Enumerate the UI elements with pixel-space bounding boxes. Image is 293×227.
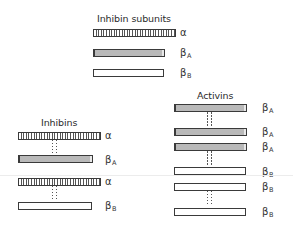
activin-ab-beta-b-label: βB — [262, 167, 273, 180]
inhibin-a-alpha-bar — [18, 132, 101, 140]
subunits-title: Inhibin subunits — [97, 14, 171, 24]
inhibin-b-beta-b-label: βB — [105, 201, 116, 214]
activin-a-beta-a-label-1: βA — [262, 103, 273, 116]
inhibins-title: Inhibins — [41, 118, 77, 128]
subunit-alpha-bar — [93, 29, 176, 37]
disulfide-bond-icon — [51, 140, 59, 154]
activin-ab-beta-b-bar — [174, 167, 246, 175]
subunit-beta-a-bar — [93, 49, 165, 57]
disulfide-bond-icon — [206, 112, 214, 126]
disulfide-bond-icon — [51, 186, 59, 200]
inhibin-a-beta-a-label: βA — [105, 155, 116, 168]
subunit-alpha-label: α — [180, 28, 187, 38]
activin-b-beta-b-bar-2 — [174, 208, 246, 216]
activin-a-beta-a-label-2: βA — [262, 127, 273, 140]
inhibin-a-alpha-label: α — [105, 131, 112, 141]
activin-b-beta-b-label-2: βB — [262, 207, 273, 220]
inhibin-b-beta-b-bar — [18, 202, 92, 210]
disulfide-bond-icon — [206, 191, 214, 205]
scan-artifact-line — [0, 175, 293, 176]
inhibin-b-alpha-bar — [18, 178, 101, 186]
activins-title: Activins — [197, 91, 233, 101]
activin-ab-beta-a-bar — [174, 143, 247, 151]
disulfide-bond-icon — [206, 151, 214, 165]
inhibin-a-beta-a-bar — [18, 155, 93, 163]
activin-a-beta-a-bar-2 — [174, 128, 247, 136]
inhibin-b-alpha-label: α — [105, 177, 112, 187]
activin-a-beta-a-bar-1 — [174, 104, 247, 112]
subunit-beta-b-label: βB — [180, 68, 191, 81]
subunit-beta-b-bar — [93, 69, 164, 77]
activin-ab-beta-a-label: βA — [262, 142, 273, 155]
activin-b-beta-b-bar-1 — [174, 183, 246, 191]
activin-b-beta-b-label-1: βB — [262, 182, 273, 195]
subunit-beta-a-label: βA — [180, 48, 191, 61]
